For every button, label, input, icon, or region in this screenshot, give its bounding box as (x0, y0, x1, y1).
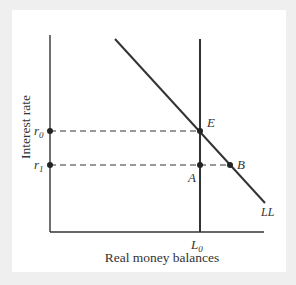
r1-point (47, 162, 53, 168)
money-market-diagram: r0 r1 E A B LL L0 Real money balances In… (0, 0, 296, 285)
y-axis-title: Interest rate (18, 95, 33, 159)
r0-point (47, 128, 53, 134)
r0-label: r0 (34, 123, 44, 140)
x-axis-title: Real money balances (105, 250, 220, 265)
r1-label: r1 (34, 157, 44, 174)
demand-curve-label: LL (260, 205, 275, 219)
point-b (227, 162, 233, 168)
point-e-label: E (206, 115, 215, 130)
point-b-label: B (237, 157, 245, 172)
point-a (197, 162, 203, 168)
point-a-label: A (187, 170, 196, 185)
point-e (197, 128, 203, 134)
